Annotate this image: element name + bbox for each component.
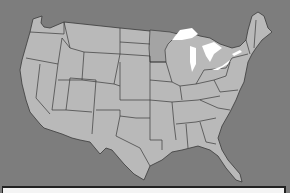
bottom-panel <box>2 186 286 193</box>
us-map <box>0 0 290 193</box>
